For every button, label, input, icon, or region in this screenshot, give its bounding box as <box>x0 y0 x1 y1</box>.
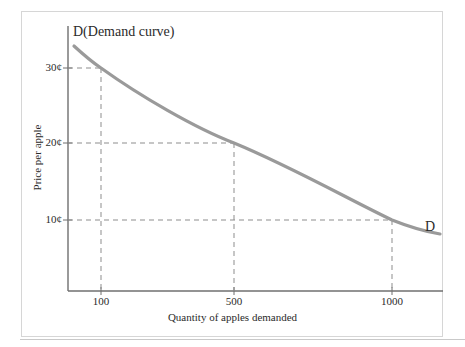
demand-curve-path <box>74 46 440 234</box>
bottom-divider-rule <box>20 339 465 340</box>
y-axis-tick-label-10: 10¢ <box>28 214 62 225</box>
y-axis-title: Price per apple <box>32 103 43 213</box>
x-axis-tick-label-500: 500 <box>212 296 256 307</box>
x-axis-title: Quantity of apples demanded <box>0 312 465 323</box>
curve-end-label: D <box>425 220 435 234</box>
y-axis-tick-label-30: 30¢ <box>28 62 62 73</box>
x-axis-tick-label-1000: 1000 <box>370 296 414 307</box>
x-axis-tick-label-100: 100 <box>79 296 123 307</box>
chart-title: D(Demand curve) <box>73 25 174 39</box>
